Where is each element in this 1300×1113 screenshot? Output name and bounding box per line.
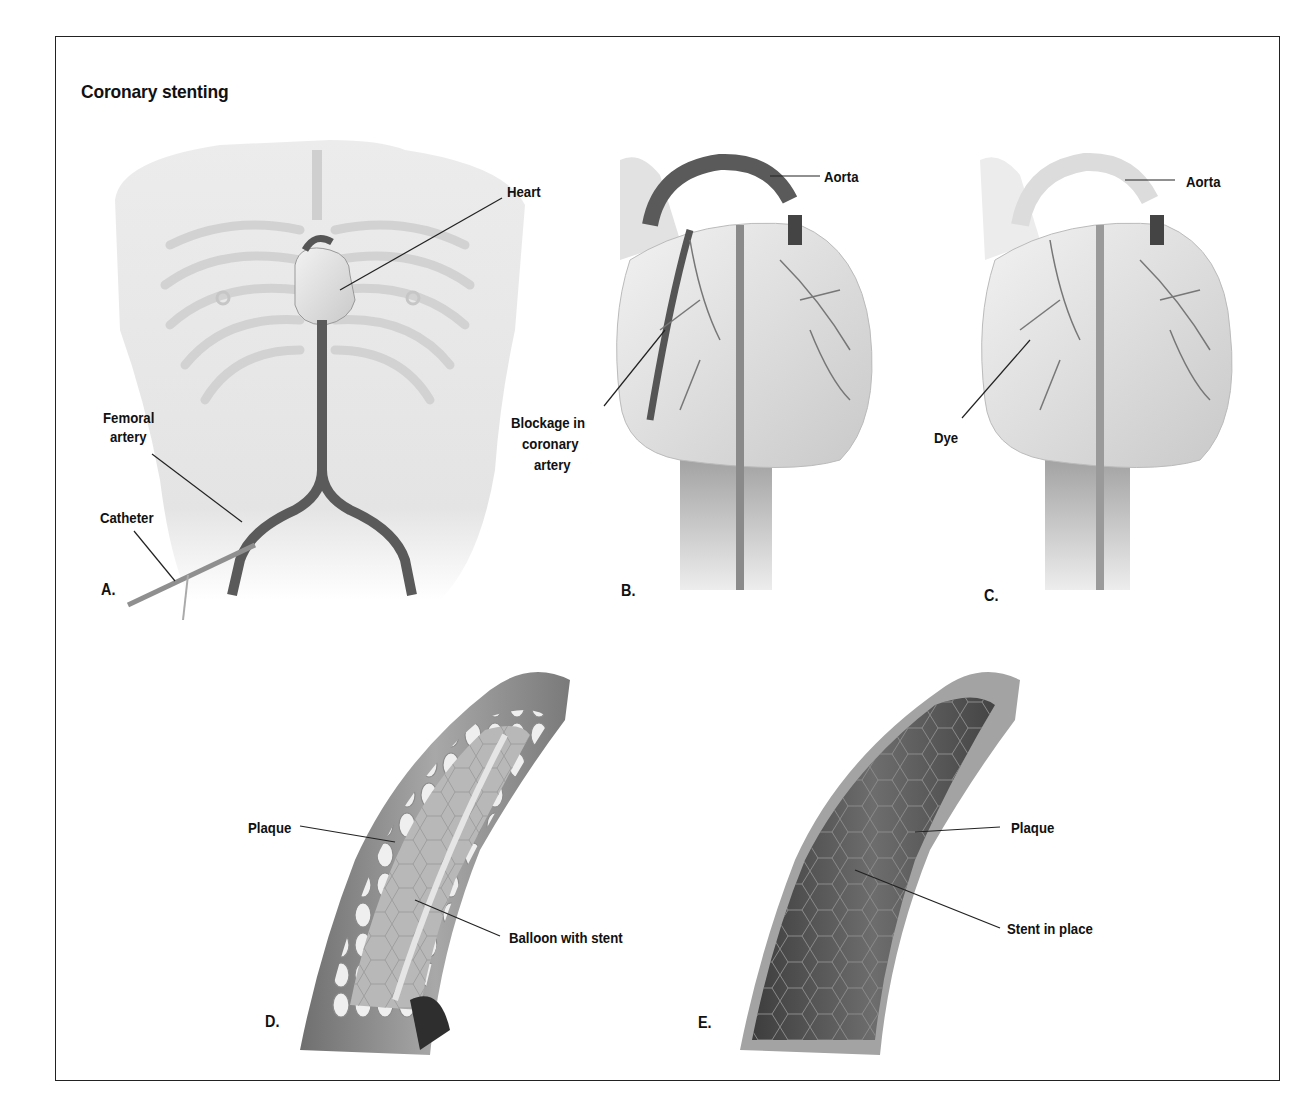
panel-c-heart <box>962 157 1232 590</box>
panel-letter-e: E. <box>698 1014 712 1032</box>
label-heart: Heart <box>507 182 541 201</box>
label-aorta-c: Aorta <box>1186 172 1220 191</box>
label-femoral-line2: artery <box>110 427 147 446</box>
label-balloon-with-stent: Balloon with stent <box>509 928 623 947</box>
panel-e-vessel <box>740 672 1020 1055</box>
panel-d-vessel <box>300 672 570 1055</box>
panel-letter-c: C. <box>984 587 998 605</box>
label-plaque-d: Plaque <box>248 818 291 837</box>
panel-letter-d: D. <box>265 1013 279 1031</box>
panel-a-torso <box>115 140 525 620</box>
label-catheter: Catheter <box>100 508 154 527</box>
illustration-canvas <box>0 0 1300 1113</box>
label-blockage-line3: artery <box>534 455 571 474</box>
label-femoral-line1: Femoral <box>103 408 154 427</box>
label-dye: Dye <box>934 428 958 447</box>
label-blockage-line2: coronary <box>522 434 578 453</box>
panel-b-heart <box>604 157 872 590</box>
panel-letter-a: A. <box>101 581 115 599</box>
label-plaque-e: Plaque <box>1011 818 1054 837</box>
label-aorta-b: Aorta <box>824 167 858 186</box>
label-stent-in-place: Stent in place <box>1007 919 1093 938</box>
panel-letter-b: B. <box>621 582 635 600</box>
label-blockage-line1: Blockage in <box>511 413 585 432</box>
